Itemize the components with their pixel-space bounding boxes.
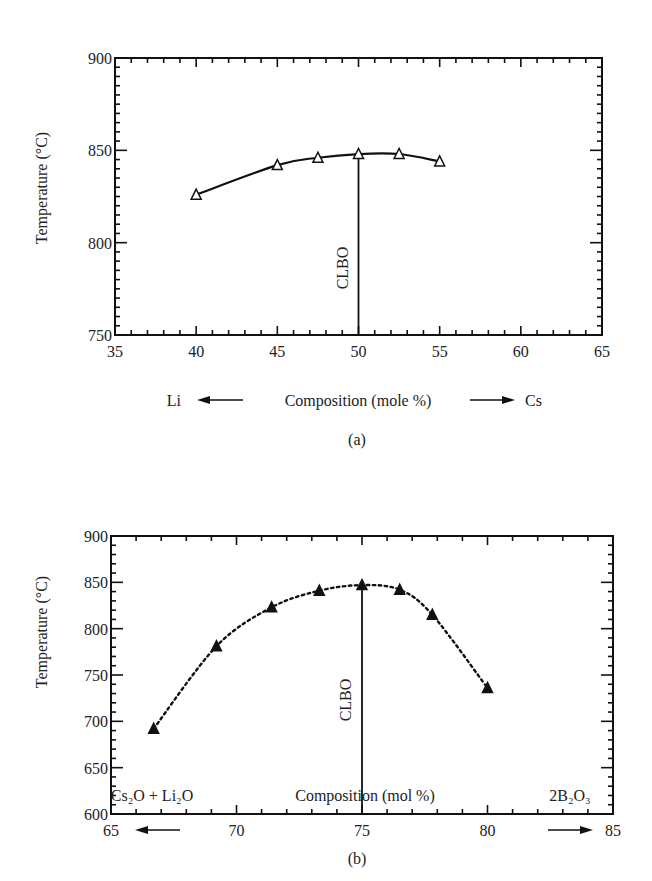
y-tick-label: 800	[84, 621, 108, 638]
x-axis-right-label-b: 2B₂O₃	[549, 787, 590, 804]
y-tick-label: 900	[88, 50, 112, 67]
y-tick-label: 650	[84, 760, 108, 777]
y-tick-label: 750	[84, 667, 108, 684]
y-tick-label: 600	[84, 806, 108, 823]
panel-caption-a: (a)	[348, 431, 366, 449]
arrow-left-icon	[135, 826, 180, 834]
x-tick-label: 55	[432, 343, 448, 360]
clbo-label-b: CLBO	[337, 679, 354, 722]
y-tick-label: 750	[88, 327, 112, 344]
x-tick-label: 65	[103, 822, 119, 839]
filled-triangle-icon	[357, 580, 367, 590]
x-tick-label: 85	[605, 822, 621, 839]
y-axis-label-a: Temperature (°C)	[33, 132, 51, 244]
x-tick-label: 65	[594, 343, 610, 360]
y-tick-label: 800	[88, 235, 112, 252]
chart-panel-b: 6570758085600650700750800850900 CLBO Tem…	[33, 528, 621, 868]
x-axis-left-label-a: Li	[167, 392, 182, 409]
x-axis-left-label-b: Cs₂O + Li₂O	[111, 787, 193, 804]
x-tick-label: 80	[480, 822, 496, 839]
y-axis-label-b: Temperature (°C)	[33, 576, 51, 688]
x-axis-label-a: Composition (mole %)	[285, 392, 432, 410]
figure: 35404550556065750800850900 CLBO Temperat…	[0, 0, 652, 881]
y-tick-label: 850	[84, 574, 108, 591]
x-tick-label: 45	[269, 343, 285, 360]
x-tick-label: 40	[188, 343, 204, 360]
chart-panel-a: 35404550556065750800850900 CLBO Temperat…	[33, 50, 610, 449]
x-tick-label: 60	[513, 343, 529, 360]
data-curve-b	[154, 585, 488, 729]
x-axis-right-label-a: Cs	[525, 392, 542, 409]
filled-triangle-icon	[314, 585, 324, 595]
data-markers-b	[149, 580, 493, 734]
tick-labels-a: 35404550556065750800850900	[88, 50, 610, 360]
x-tick-label: 70	[229, 822, 245, 839]
panel-caption-b: (b)	[348, 850, 367, 868]
x-axis-label-b: Composition (mol %)	[295, 787, 435, 805]
x-tick-label: 75	[354, 822, 370, 839]
data-markers-a	[191, 149, 444, 200]
clbo-label-a: CLBO	[334, 247, 351, 290]
x-tick-label: 50	[351, 343, 367, 360]
y-tick-label: 850	[88, 142, 112, 159]
y-tick-label: 900	[84, 528, 108, 545]
arrow-right-icon	[470, 396, 515, 404]
x-tick-label: 35	[107, 343, 123, 360]
filled-triangle-icon	[427, 609, 437, 619]
arrow-left-icon	[197, 396, 243, 404]
y-tick-label: 700	[84, 713, 108, 730]
arrow-right-icon	[548, 826, 593, 834]
